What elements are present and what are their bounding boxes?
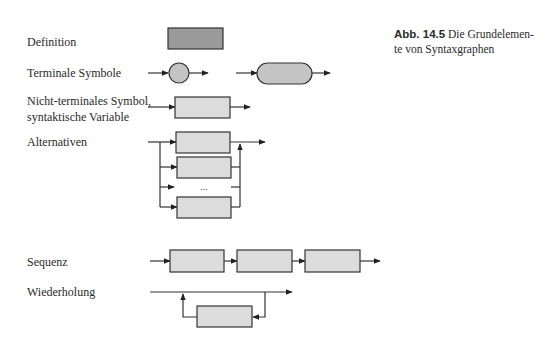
syntax-graph-diagram: ...: [0, 0, 550, 345]
definition-box: [168, 28, 223, 49]
seq-box-3: [305, 250, 360, 272]
terminal-circle-group: [148, 63, 208, 83]
alternatives-group: [148, 132, 265, 218]
repetition-box: [197, 306, 252, 327]
alternatives-ellipsis: ...: [200, 181, 208, 192]
terminal-circle: [169, 63, 189, 83]
seq-box-1: [170, 250, 224, 272]
nonterminal-group: [148, 97, 250, 118]
sequence-group: [150, 250, 380, 272]
alt-box-1: [176, 132, 230, 153]
nonterminal-box: [175, 97, 230, 118]
terminal-rounded-box: [257, 63, 312, 84]
alt-box-3: [177, 197, 231, 218]
repetition-group: [150, 292, 292, 327]
alt-box-2: [177, 157, 231, 178]
seq-box-2: [237, 250, 292, 272]
terminal-rounded-group: [236, 63, 330, 84]
